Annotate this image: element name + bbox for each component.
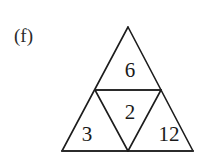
- cell-label-middle: 2: [125, 100, 136, 124]
- figure-container: (f) 6 2 3 12: [0, 0, 198, 159]
- cell-label-bottom-left: 3: [82, 122, 93, 146]
- cell-label-bottom-right: 12: [159, 122, 180, 146]
- triangle-diagram: 6 2 3 12: [0, 0, 198, 159]
- cell-label-top: 6: [125, 58, 136, 82]
- inverted-triangle-left-edge: [95, 90, 128, 151]
